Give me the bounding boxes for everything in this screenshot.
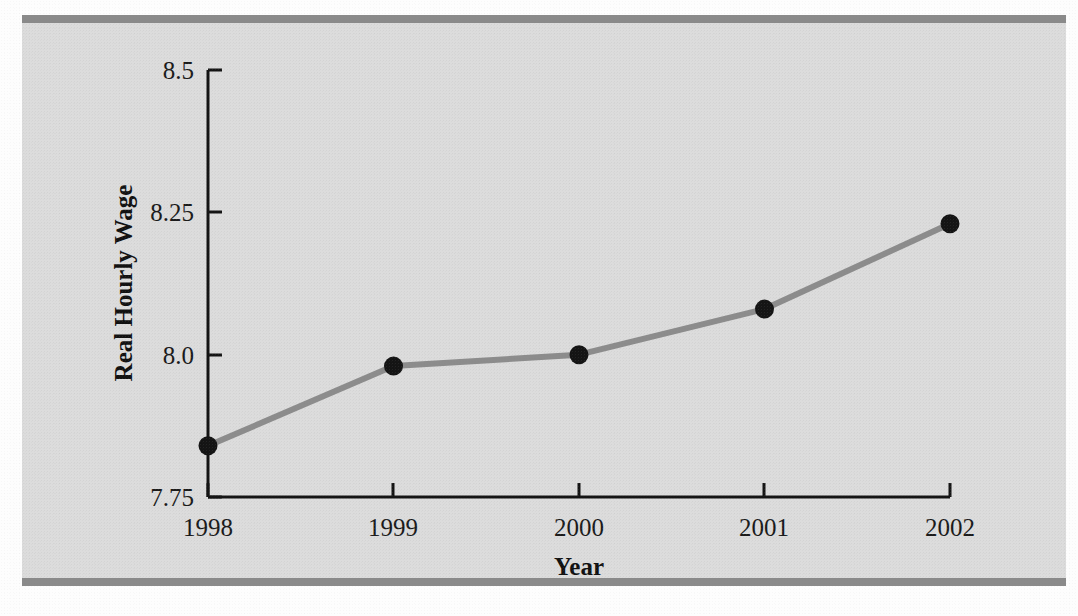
x-tick-label-2000: 2000 bbox=[554, 514, 604, 541]
y-tick-label-8-0: 8.0 bbox=[163, 342, 194, 369]
y-tick-marks bbox=[208, 70, 222, 497]
series-markers bbox=[199, 214, 960, 455]
data-point-1999 bbox=[384, 357, 403, 376]
x-axis-title: Year bbox=[554, 553, 604, 578]
line-chart: 8.5 8.25 8.0 7.75 1998 1999 2000 2001 20… bbox=[22, 23, 1066, 578]
top-rule bbox=[22, 15, 1066, 23]
x-tick-label-2002: 2002 bbox=[925, 514, 975, 541]
data-point-2002 bbox=[941, 214, 960, 233]
y-tick-label-8-25: 8.25 bbox=[150, 199, 194, 226]
bottom-rule bbox=[22, 578, 1066, 586]
y-tick-label-8-5: 8.5 bbox=[163, 57, 194, 84]
y-tick-label-7-75: 7.75 bbox=[150, 484, 194, 511]
y-axis-title: Real Hourly Wage bbox=[110, 185, 137, 382]
data-point-1998 bbox=[199, 436, 218, 455]
x-tick-label-1998: 1998 bbox=[183, 514, 233, 541]
series-line-real-hourly-wage bbox=[208, 224, 950, 446]
x-tick-marks bbox=[208, 483, 950, 497]
figure-page: 8.5 8.25 8.0 7.75 1998 1999 2000 2001 20… bbox=[0, 0, 1078, 616]
chart-panel: 8.5 8.25 8.0 7.75 1998 1999 2000 2001 20… bbox=[22, 23, 1066, 578]
x-tick-label-2001: 2001 bbox=[739, 514, 789, 541]
x-tick-label-1999: 1999 bbox=[368, 514, 418, 541]
data-point-2000 bbox=[570, 345, 589, 364]
data-point-2001 bbox=[755, 300, 774, 319]
